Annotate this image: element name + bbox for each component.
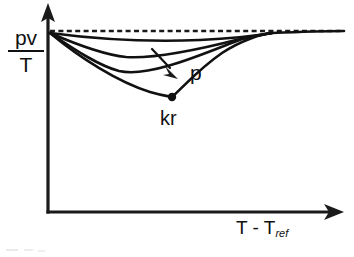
critical-point-label: kr (160, 108, 177, 128)
y-axis-label: pv T (4, 27, 48, 75)
x-axis-label: T - Tref (236, 218, 288, 239)
scan-artifact (6, 249, 45, 252)
x-axis (48, 204, 344, 220)
pressure-arrow-label: p (190, 62, 202, 83)
critical-point-marker (168, 93, 176, 101)
y-axis-label-numerator: pv (4, 27, 48, 49)
merged-asymptotic-tail (272, 31, 344, 33)
isobar-curve-3 (50, 33, 272, 72)
plot-canvas (0, 0, 354, 257)
y-axis-label-denominator: T (4, 54, 48, 75)
isobar-curve-4-critical (50, 33, 172, 97)
x-axis-label-subscript: ref (275, 227, 288, 239)
x-axis-label-main: T - T (236, 217, 275, 238)
fraction-bar (8, 50, 44, 52)
thermodynamic-pv-over-t-figure: pv T T - Tref kr p (0, 0, 354, 257)
